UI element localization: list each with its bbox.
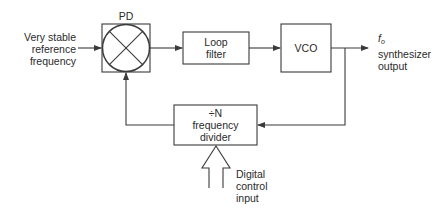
feedback-path-left (126, 73, 174, 125)
divider-label: ÷N frequency divider (174, 107, 257, 143)
loop-filter-label: Loop filter (183, 36, 249, 60)
output-symbol: fo (378, 32, 446, 48)
output-label: fo synthesizer output (378, 32, 446, 72)
pd-label: PD (102, 10, 150, 22)
vco-label: VCO (281, 42, 331, 54)
feedback-path-right (258, 48, 345, 125)
input-label: Very stable reference frequency (2, 31, 76, 67)
digital-control-arrow-icon (202, 146, 230, 188)
control-input-label: Digital control input (236, 168, 296, 204)
